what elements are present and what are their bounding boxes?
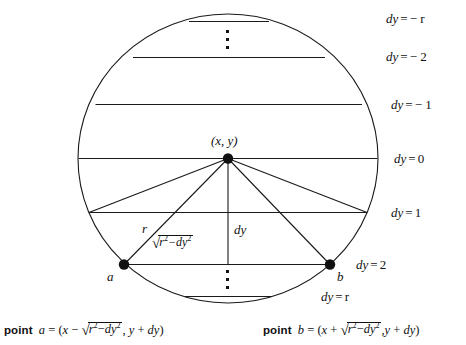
ray-center-to-dy1-left	[89, 159, 228, 213]
caption-point-a: point a = (x − √r2−dy2 , y + dy)	[4, 322, 164, 337]
radicand-dy: dy	[176, 235, 187, 249]
scanline-label-text: dy	[391, 205, 403, 220]
radicand-dy-exponent: 2	[187, 234, 191, 243]
center-point-label: (x, y)	[211, 134, 238, 147]
caption-b-radicand-dy: dy	[364, 322, 376, 336]
scanline-label-dy-0: dy=0	[394, 152, 424, 165]
caption-a-close-paren: )	[159, 323, 163, 337]
caption-a-y: y	[129, 323, 135, 337]
caption-point-b: point b = (x + √r2−dy2 ,y + dy)	[263, 322, 419, 337]
scanline-label-value: − 2	[410, 49, 427, 64]
vertical-ellipsis-top	[226, 30, 229, 54]
caption-b-dy: dy	[403, 323, 415, 337]
caption-b-close-paren: )	[415, 323, 419, 337]
caption-b-x: x	[322, 323, 328, 337]
chord-half-length-label: √r2−dy2	[152, 235, 193, 250]
scanline-label-text: dy	[394, 151, 406, 166]
caption-word-point: point	[263, 324, 292, 336]
caption-a-comma: ,	[122, 323, 125, 337]
caption-b-radicand-minus: −	[357, 322, 364, 336]
caption-b-sign: +	[330, 323, 337, 337]
scanline-label-value: 2	[380, 257, 387, 272]
point-a-label: a	[107, 270, 114, 283]
caption-b-radicand-dy-exp: 2	[375, 321, 379, 330]
point-a-dot	[119, 259, 129, 269]
scanline-label-dy-neg-2: dy=− 2	[386, 50, 427, 63]
caption-a-name: a	[39, 323, 45, 337]
caption-b-y: y	[385, 323, 391, 337]
scanline-label-dy-1: dy=1	[391, 206, 421, 219]
scanline-label-text: dy	[386, 49, 398, 64]
point-b-dot	[325, 259, 335, 269]
caption-b-sqrt: √r2−dy2	[340, 322, 381, 337]
radius-label-r: r	[142, 222, 147, 235]
center-point-dot	[223, 153, 233, 163]
caption-b-plus: +	[393, 323, 400, 337]
caption-a-sqrt: √r2−dy2	[81, 322, 122, 337]
caption-a-radicand-dy-exp: 2	[116, 321, 120, 330]
ray-center-to-dy1-right	[228, 159, 367, 213]
caption-a-dy: dy	[148, 323, 160, 337]
scanline-label-text: dy	[321, 289, 333, 304]
caption-a-equals: =	[48, 323, 55, 337]
ray-center-to-point-b	[228, 159, 330, 265]
scanline-label-text: dy	[386, 11, 398, 26]
scanline-label-value: r	[345, 289, 349, 304]
scanline-label-value: 1	[415, 205, 422, 220]
caption-b-equals: =	[307, 323, 314, 337]
caption-a-radicand-dy: dy	[105, 322, 117, 336]
scanline-label-dy-neg-r: dy=− r	[386, 12, 425, 25]
scanline-label-dy-r: dy=r	[321, 290, 349, 303]
scanline-label-text: dy	[391, 97, 403, 112]
caption-a-sign: −	[71, 323, 78, 337]
scanline-label-value: 0	[418, 151, 425, 166]
scanline-label-text: dy	[356, 257, 368, 272]
scanline-label-value: − r	[410, 11, 425, 26]
scanline-label-value: − 1	[415, 97, 432, 112]
point-b-label: b	[337, 270, 344, 283]
caption-a-x: x	[63, 323, 69, 337]
caption-a-radicand-minus: −	[98, 322, 105, 336]
caption-a-plus: +	[137, 323, 144, 337]
caption-b-name: b	[298, 323, 304, 337]
sqrt-expression: √r2−dy2	[152, 235, 193, 250]
caption-word-point: point	[4, 324, 33, 336]
vertical-ellipsis-bottom	[226, 270, 229, 294]
radicand-minus: −	[168, 235, 176, 249]
dy-segment-label: dy	[234, 223, 246, 236]
scanline-label-dy-neg-1: dy=− 1	[391, 98, 432, 111]
scanline-label-dy-2: dy=2	[356, 258, 386, 271]
